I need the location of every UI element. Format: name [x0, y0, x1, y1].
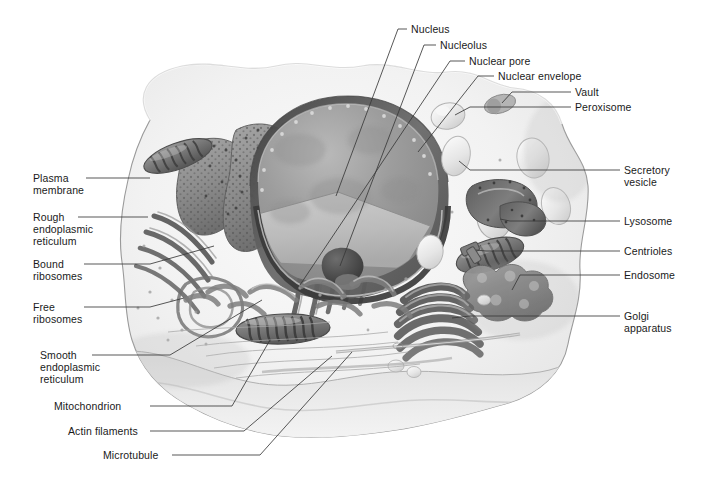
label-secretory-vesicle: Secretory vesicle: [624, 164, 670, 188]
label-mitochondrion: Mitochondrion: [54, 400, 121, 412]
label-nucleolus: Nucleolus: [440, 39, 487, 51]
label-actin-filaments: Actin filaments: [68, 425, 138, 437]
label-free-ribosomes: Free ribosomes: [33, 301, 82, 325]
cell-diagram-figure: Nucleus Nucleolus Nuclear pore Nuclear e…: [0, 0, 706, 485]
label-peroxisome: Peroxisome: [575, 101, 632, 113]
label-vault: Vault: [575, 86, 599, 98]
label-microtubule: Microtubule: [103, 449, 158, 461]
animal-cell-illustration: [0, 0, 706, 485]
label-nuclear-pore: Nuclear pore: [469, 55, 530, 67]
label-plasma-membrane: Plasma membrane: [33, 172, 84, 196]
label-smooth-endoplasmic-reticulum: Smooth endoplasmic reticulum: [40, 349, 100, 386]
label-nuclear-envelope: Nuclear envelope: [498, 70, 581, 82]
label-lysosome: Lysosome: [624, 215, 672, 227]
label-centrioles: Centrioles: [624, 245, 672, 257]
label-rough-endoplasmic-reticulum: Rough endoplasmic reticulum: [33, 211, 93, 248]
label-bound-ribosomes: Bound ribosomes: [33, 258, 82, 282]
label-nucleus: Nucleus: [411, 23, 450, 35]
label-golgi-apparatus: Golgi apparatus: [624, 310, 672, 334]
label-endosome: Endosome: [624, 269, 675, 281]
